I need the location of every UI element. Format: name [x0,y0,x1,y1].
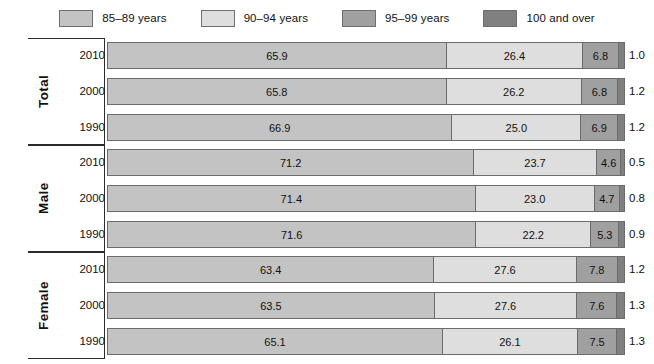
chart-row: 201063.427.67.81.21.2 [28,256,654,283]
bar-segment-value: 22.2 [523,229,544,241]
group-rows: 201065.926.46.81.01.0200065.826.26.81.21… [28,38,654,145]
legend-label-a85_89: 85–89 years [102,12,166,24]
row-year-label: 2010 [57,149,105,176]
row-outer-value: 1.2 [629,114,654,141]
bar-segment-value: 26.2 [503,86,524,98]
bar-group-female: Female201063.427.67.81.21.2200063.527.67… [28,252,654,359]
row-outer-value: 0.8 [629,185,654,212]
chart-legend: 85–89 years90–94 years95–99 years100 and… [0,0,654,36]
chart-plot-area: Total201065.926.46.81.01.0200065.826.26.… [0,36,654,364]
bar-segment-value: 66.9 [269,122,290,134]
bar-segment-a90_94: 26.2 [446,78,581,105]
legend-item-a85_89[interactable]: 85–89 years [59,10,166,27]
row-outer-value: 1.2 [629,256,654,283]
row-year-label: 2010 [57,42,105,69]
bar-segment-value: 5.3 [597,229,612,241]
bar-segment-a90_94: 27.6 [434,292,577,319]
chart-row: 201065.926.46.81.01.0 [28,42,654,69]
bar-segment-a95_99: 7.5 [577,328,616,355]
bar-segment-value: 7.6 [589,300,604,312]
bar-segment-value: 65.1 [264,336,285,348]
bar-segment-a90_94: 25.0 [451,114,580,141]
group-rows: 201071.223.74.60.50.5200071.423.04.70.80… [28,145,654,252]
bar-segment-a95_99: 7.6 [576,292,616,319]
bar-segment-a95_99: 6.9 [580,114,616,141]
bar-segment-a85_89: 71.4 [107,185,475,212]
chart-row: 200065.826.26.81.21.2 [28,78,654,105]
bar-segment-value: 4.6 [601,157,616,169]
bar-segment-value: 4.7 [599,193,614,205]
row-year-label: 1990 [57,114,105,141]
bar-segment-value: 65.9 [266,50,287,62]
bar-segment-value: 63.4 [260,264,281,276]
bar-segment-a100p: 1.2 [617,78,625,105]
stacked-bar: 65.826.26.81.2 [107,78,625,105]
bar-segment-a90_94: 23.7 [473,149,596,176]
row-year-label: 2010 [57,256,105,283]
row-outer-value: 1.3 [629,328,654,355]
legend-label-a95_99: 95–99 years [385,12,449,24]
bar-segment-value: 7.5 [589,336,604,348]
chart-row: 200063.527.67.61.31.3 [28,292,654,319]
stacked-bar: 63.527.67.61.3 [107,292,625,319]
legend-item-a100p[interactable]: 100 and over [483,10,594,27]
bar-segment-a85_89: 63.4 [107,256,433,283]
legend-item-a90_94[interactable]: 90–94 years [201,10,308,27]
bar-segment-a95_99: 4.7 [594,185,619,212]
bar-segment-value: 65.8 [266,86,287,98]
bar-segment-value: 6.8 [592,86,607,98]
bar-segment-a95_99: 5.3 [590,221,618,248]
bar-segment-value: 26.4 [504,50,525,62]
bar-segment-value: 71.4 [281,193,302,205]
bar-segment-a95_99: 6.8 [581,78,617,105]
legend-swatch-a90_94 [201,10,235,27]
bar-segment-value: 23.0 [524,193,545,205]
bar-segment-a100p: 1.3 [616,292,625,319]
chart-row: 199071.622.25.30.90.9 [28,221,654,248]
bar-segment-a85_89: 66.9 [107,114,451,141]
bar-group-total: Total201065.926.46.81.01.0200065.826.26.… [28,38,654,145]
stacked-bar: 66.925.06.91.2 [107,114,625,141]
stacked-bar: 65.926.46.81.0 [107,42,625,69]
chart-row: 200071.423.04.70.80.8 [28,185,654,212]
legend-swatch-a85_89 [59,10,93,27]
bar-segment-a85_89: 65.8 [107,78,446,105]
bar-segment-value: 27.6 [494,264,515,276]
group-rows: 201063.427.67.81.21.2200063.527.67.61.31… [28,252,654,359]
row-year-label: 2000 [57,292,105,319]
chart-row: 199065.126.17.51.31.3 [28,328,654,355]
bar-segment-value: 7.8 [589,264,604,276]
bar-segment-a90_94: 26.4 [446,42,582,69]
row-outer-value: 1.2 [629,78,654,105]
bar-segment-a95_99: 7.8 [576,256,617,283]
bar-segment-value: 23.7 [524,157,545,169]
stacked-bar: 65.126.17.51.3 [107,328,625,355]
bar-segment-value: 27.6 [495,300,516,312]
row-outer-value: 0.9 [629,221,654,248]
bar-segment-a100p: 0.9 [618,221,625,248]
row-outer-value: 0.5 [629,149,654,176]
bar-segment-a100p: 1.2 [617,256,625,283]
stacked-bar: 71.223.74.60.5 [107,149,625,176]
legend-label-a100p: 100 and over [526,12,594,24]
chart-row: 201071.223.74.60.50.5 [28,149,654,176]
bar-group-male: Male201071.223.74.60.50.5200071.423.04.7… [28,145,654,252]
bar-segment-value: 71.6 [281,229,302,241]
row-outer-value: 1.3 [629,292,654,319]
bar-segment-a100p: 0.5 [620,149,625,176]
bar-segment-a85_89: 65.9 [107,42,446,69]
legend-swatch-a100p [483,10,517,27]
bar-segment-a95_99: 6.8 [582,42,618,69]
legend-swatch-a95_99 [342,10,376,27]
bar-segment-a90_94: 27.6 [433,256,576,283]
bar-segment-a85_89: 65.1 [107,328,442,355]
row-outer-value: 1.0 [629,42,654,69]
legend-label-a90_94: 90–94 years [244,12,308,24]
row-year-label: 1990 [57,221,105,248]
row-year-label: 2000 [57,185,105,212]
stacked-bar: 71.423.04.70.8 [107,185,625,212]
bar-segment-a90_94: 26.1 [442,328,577,355]
legend-item-a95_99[interactable]: 95–99 years [342,10,449,27]
row-year-label: 2000 [57,78,105,105]
bar-segment-a90_94: 23.0 [475,185,594,212]
